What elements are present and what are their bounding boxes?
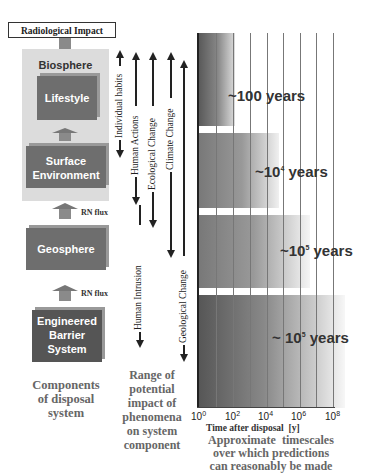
ecological-change-label: Ecological Change [147,118,157,190]
x-tick: 106 [291,410,306,422]
band-ebs [197,295,345,408]
ecological-change-line [152,58,154,106]
phenomena-caption: Range of potential impact of phenomena o… [112,368,192,452]
band-label-ebs: ~ 105 years [272,329,349,346]
timescale-caption: Approximate timescales over which predic… [196,434,346,473]
caption-line: Range of [112,368,192,382]
lifestyle-box: Lifestyle [37,76,97,120]
caption-line: Components [18,378,114,392]
ecological-change-line [152,192,154,222]
rn-flux-label: RN flux [81,208,108,217]
x-tick: 100 [191,410,206,422]
arrow-down-icon [132,197,140,205]
arrow-down-icon [136,340,144,348]
surface-environment-label: Surface Environment [26,146,106,182]
band-label-biosphere: ~100 years [228,87,305,104]
human-intrusion-label: Human Intrusion [133,265,143,330]
caption-line: impact of [112,396,192,410]
arrow-shaft [59,291,71,301]
caption-line: can reasonably be made [196,460,346,473]
geosphere-label: Geosphere [26,228,106,270]
geosphere-box: Geosphere [26,228,106,270]
label-base: ~ 10 [272,329,302,346]
arrow-shaft [59,209,71,219]
human-actions-label: Human Actions [130,116,140,175]
gridline [216,33,217,408]
engineered-barrier-system-box: Engineered Barrier System [32,310,102,362]
caption-line: system [18,406,114,420]
biosphere-label: Biosphere [22,59,109,71]
caption-line: component [112,438,192,452]
gridline [316,33,317,408]
caption-line: on system [112,424,192,438]
x-tick: 108 [325,410,340,422]
human-actions-line [135,177,137,199]
gridline [333,33,334,408]
individual-habits-line [119,56,121,66]
arrow-down-icon [149,220,157,228]
human-intrusion-line [139,205,141,225]
climate-change-line [170,172,172,252]
geological-change-line [183,66,185,256]
impact-arrow [59,38,71,49]
climate-change-label: Climate Change [165,109,175,170]
x-tick: 104 [258,410,273,422]
x-tick: 102 [225,410,240,422]
arrow-down-icon [116,150,124,158]
geological-change-label: Geological Change [178,270,188,343]
human-actions-line [135,58,137,106]
surface-label-line2: Environment [26,168,106,182]
gridline [197,33,199,408]
climate-change-line [170,58,172,98]
label-unit: years [284,163,327,180]
caption-line: phenomena [112,410,192,424]
arrow-down-icon [167,250,175,258]
band-label-geosphere: ~105 years [280,242,353,259]
x-axis-label: Time after disposal [y] [206,423,300,433]
arrow-shaft [59,133,71,141]
ebs-label-line3: System [32,342,102,356]
individual-habits-label: Individual habits [114,74,124,138]
lifestyle-label: Lifestyle [37,76,97,120]
ebs-label-line2: Barrier [32,328,102,342]
label-unit: years [309,242,352,259]
ebs-label: Engineered Barrier System [32,310,102,356]
arrow-down-icon [180,354,188,362]
x-axis [197,407,335,408]
caption-line: potential [112,382,192,396]
ebs-label-line1: Engineered [32,314,102,328]
label-base: ~10 [280,242,305,259]
surface-label-line1: Surface [26,154,106,168]
rn-flux-label: RN flux [81,289,108,298]
components-caption: Components of disposal system [18,378,114,420]
caption-line: of disposal [18,392,114,406]
label-base: ~10 [255,163,280,180]
surface-environment-box: Surface Environment [26,146,106,188]
radiological-impact-box: Radiological Impact [8,22,116,38]
label-unit: years [306,329,349,346]
band-label-surface: ~104 years [255,163,328,180]
